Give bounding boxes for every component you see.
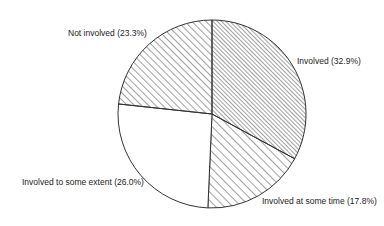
label-involved: Involved (32.9%) (297, 56, 361, 66)
label-involved-to-some-extent: Involved to some extent (26.0%) (22, 177, 144, 187)
pie-slices (118, 20, 306, 208)
pie-chart (0, 0, 384, 226)
pie-slice-involved-to-some-extent (118, 104, 212, 208)
label-involved-at-some-time: Involved at some time (17.8%) (262, 196, 377, 206)
label-not-involved: Not involved (23.3%) (68, 28, 147, 38)
